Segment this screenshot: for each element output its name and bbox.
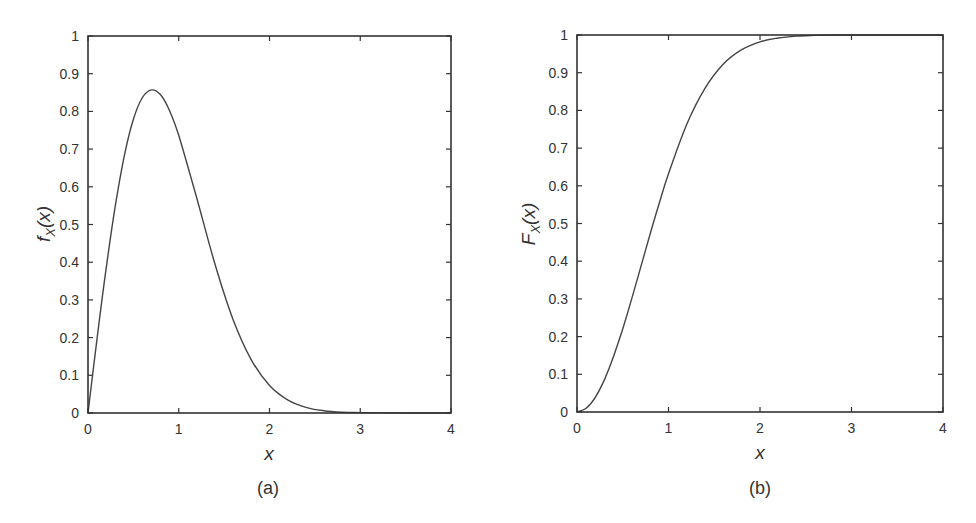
y-tick-label: 0.8 — [60, 103, 80, 119]
panel-a-ticks: 00.10.20.30.40.50.60.70.80.9101234 — [60, 28, 456, 437]
y-tick-label: 0.4 — [60, 254, 80, 270]
y-tick-label: 0.5 — [549, 216, 569, 232]
y-tick-label: 0.8 — [549, 102, 569, 118]
panel-b-cdf-chart: 00.10.20.30.40.50.60.70.80.9101234 FX(x)… — [518, 27, 947, 498]
x-tick-label: 1 — [175, 421, 183, 437]
y-tick-label: 0.6 — [549, 178, 569, 194]
panel-a-plot-frame — [88, 36, 451, 413]
y-tick-label: 0.2 — [60, 330, 80, 346]
panel-b-y-axis-label: FX(x) — [518, 203, 543, 245]
panel-a-caption: (a) — [257, 478, 279, 498]
y-tick-label: 0.1 — [60, 367, 80, 383]
x-tick-label: 2 — [756, 420, 764, 436]
y-tick-label: 0.7 — [549, 140, 569, 156]
y-tick-label: 0.2 — [549, 329, 569, 345]
y-tick-label: 1 — [71, 28, 79, 44]
y-tick-label: 0.4 — [549, 253, 569, 269]
panel-b-caption: (b) — [749, 478, 771, 498]
y-tick-label: 0.5 — [60, 217, 80, 233]
y-tick-label: 0 — [560, 404, 568, 420]
x-tick-label: 4 — [447, 421, 455, 437]
panel-a-x-axis-label: x — [263, 443, 275, 464]
cdf-curve — [577, 35, 943, 412]
x-tick-label: 2 — [266, 421, 274, 437]
y-tick-label: 1 — [560, 27, 568, 43]
x-tick-label: 0 — [573, 420, 581, 436]
y-tick-label: 0.3 — [549, 291, 569, 307]
panel-a-pdf-chart: 00.10.20.30.40.50.60.70.80.9101234 fX(x)… — [33, 28, 455, 498]
y-tick-label: 0.3 — [60, 292, 80, 308]
y-tick-label: 0.9 — [549, 65, 569, 81]
x-tick-label: 3 — [356, 421, 364, 437]
pdf-curve — [88, 90, 451, 413]
panel-b-plot-frame — [577, 35, 943, 412]
y-tick-label: 0.9 — [60, 66, 80, 82]
y-tick-label: 0.6 — [60, 179, 80, 195]
y-tick-label: 0.1 — [549, 366, 569, 382]
x-tick-label: 0 — [84, 421, 92, 437]
x-tick-label: 3 — [848, 420, 856, 436]
figure: 00.10.20.30.40.50.60.70.80.9101234 fX(x)… — [0, 0, 976, 523]
y-tick-label: 0 — [71, 405, 79, 421]
panel-b-x-axis-label: x — [754, 442, 766, 463]
y-tick-label: 0.7 — [60, 141, 80, 157]
x-tick-label: 1 — [665, 420, 673, 436]
panel-b-ticks: 00.10.20.30.40.50.60.70.80.9101234 — [549, 27, 948, 436]
x-tick-label: 4 — [939, 420, 947, 436]
panel-a-y-axis-label: fX(x) — [33, 206, 58, 242]
